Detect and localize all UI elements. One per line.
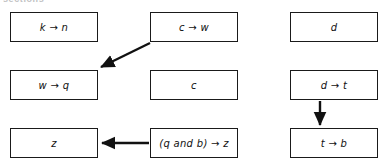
rule-box-t-b[interactable]: t → b [290, 128, 378, 158]
rule-box-label: w → q [39, 80, 70, 91]
rule-box-label: k → n [40, 22, 68, 33]
arrow-c-w-to-w-q [101, 43, 150, 67]
rule-box-label: z [51, 138, 57, 149]
rule-box-k-n[interactable]: k → n [10, 12, 98, 42]
rule-box-label: d → t [321, 80, 348, 91]
rule-box-label: t → b [321, 138, 348, 149]
rule-box-q-and-b-z[interactable]: (q and b) → z [150, 128, 238, 158]
diagram-canvas: sections k → n c → w d w → q c d → t z (… [0, 0, 386, 165]
rule-box-d-t[interactable]: d → t [290, 70, 378, 100]
clipped-header-text: sections [3, 0, 44, 4]
rule-box-label: c → w [179, 22, 209, 33]
rule-box-label: (q and b) → z [159, 138, 229, 149]
rule-box-c[interactable]: c [150, 70, 238, 100]
rule-box-z[interactable]: z [10, 128, 98, 158]
rule-box-d[interactable]: d [290, 12, 378, 42]
rule-box-c-w[interactable]: c → w [150, 12, 238, 42]
rule-box-label: c [191, 80, 197, 91]
rule-box-label: d [331, 22, 338, 33]
rule-box-w-q[interactable]: w → q [10, 70, 98, 100]
